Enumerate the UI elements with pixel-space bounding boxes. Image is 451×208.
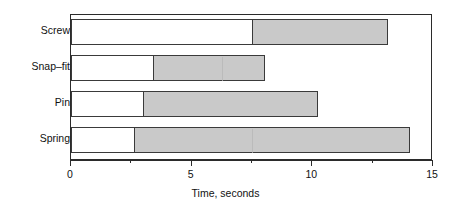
category-label-snapfit: Snap–fit xyxy=(31,53,70,79)
x-tick-12p5 xyxy=(372,160,373,163)
x-tick-7p5 xyxy=(251,160,252,163)
x-tick-label-15: 15 xyxy=(426,168,438,180)
bar-inner-mark xyxy=(222,57,223,81)
category-label-pin: Pin xyxy=(55,89,70,115)
category-label-spring: Spring xyxy=(40,125,70,151)
x-tick-label-0: 0 xyxy=(67,168,73,180)
x-axis-title: Time, seconds xyxy=(0,187,451,199)
bar-segment-pin-base xyxy=(71,91,144,117)
x-tick-0 xyxy=(70,160,71,166)
bar-segment-spring-fill xyxy=(134,127,410,153)
bar-segment-screw-base xyxy=(71,19,253,45)
x-tick-label-10: 10 xyxy=(305,168,317,180)
x-tick-label-5: 5 xyxy=(188,168,194,180)
x-tick-10 xyxy=(311,160,312,166)
x-tick-2p5 xyxy=(130,160,131,163)
bar-segment-pin-fill xyxy=(143,91,318,117)
category-label-screw: Screw xyxy=(41,17,70,43)
bar-segment-spring-base xyxy=(71,127,135,153)
x-tick-15 xyxy=(432,160,433,166)
plot-area xyxy=(70,14,432,160)
bar-chart: Screw Snap–fit Pin Spring xyxy=(0,0,451,208)
bar-segment-snapfit-base xyxy=(71,55,154,81)
bar-segment-snapfit-fill xyxy=(153,55,265,81)
x-tick-5 xyxy=(191,160,192,166)
bar-inner-mark xyxy=(252,129,253,153)
bar-segment-screw-fill xyxy=(252,19,388,45)
